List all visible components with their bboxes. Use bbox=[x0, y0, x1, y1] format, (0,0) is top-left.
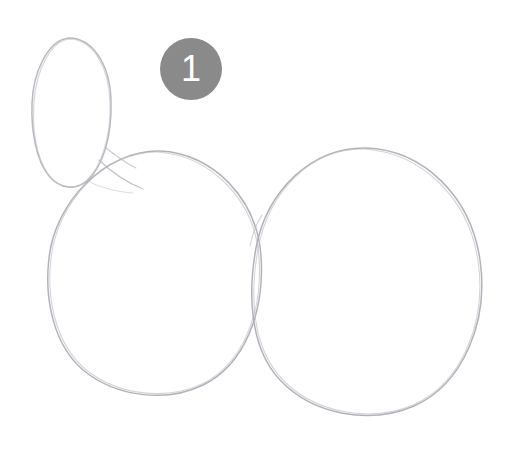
sketch-canvas: 1 bbox=[0, 0, 512, 450]
right-circle-stroke-overdraw bbox=[254, 149, 480, 414]
pencil-sketch-drawing bbox=[0, 0, 512, 450]
step-badge-1-label: 1 bbox=[181, 51, 201, 87]
step-badge-1[interactable]: 1 bbox=[160, 38, 222, 100]
small-ellipse-stroke-overdraw bbox=[34, 39, 111, 187]
small-ellipse-stroke-main bbox=[32, 38, 111, 187]
right-circle-shape bbox=[250, 148, 482, 415]
small-ellipse-tail-stroke bbox=[99, 160, 143, 189]
right-circle-stroke-main bbox=[252, 148, 482, 415]
small-ellipse-tail-stroke-2 bbox=[88, 181, 133, 193]
small-ellipse-shape bbox=[32, 38, 143, 193]
